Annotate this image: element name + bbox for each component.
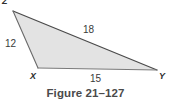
figure-container: Z X Y 12 18 15 Figure 21–127 <box>0 0 171 107</box>
side-length-xy: 15 <box>90 74 101 84</box>
side-length-zx: 12 <box>5 39 16 49</box>
side-length-zy: 18 <box>83 25 94 35</box>
vertex-label-z: Z <box>2 0 8 6</box>
vertex-label-x: X <box>30 72 36 81</box>
vertex-label-y: Y <box>159 72 165 81</box>
figure-caption: Figure 21–127 <box>0 88 171 100</box>
